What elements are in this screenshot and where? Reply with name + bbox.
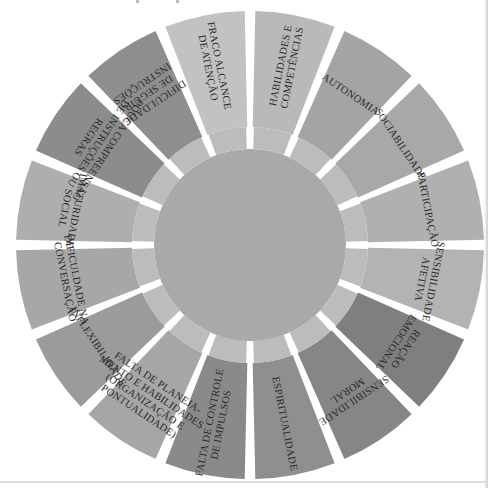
page-edge-bottom	[0, 481, 488, 483]
page-edge-right	[486, 0, 488, 488]
radial-wheel-diagram: HABILIDADES ECOMPETÊNCIASAUTONOMIASOCIAB…	[0, 0, 500, 488]
wheel-center-disk	[154, 149, 346, 341]
